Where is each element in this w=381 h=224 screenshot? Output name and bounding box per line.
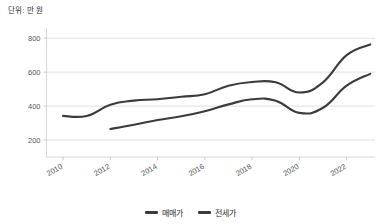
chart-container: 단위: 만 원 200400600800 2010201220142016201… [0,0,381,224]
legend-item-0: 매매가 [145,207,183,218]
series-lines-group [63,44,370,129]
line-chart-plot: 200400600800 201020122014201620182020202… [0,0,381,224]
series-line-jeonse [110,74,370,129]
legend-item-1: 전세가 [198,207,236,218]
x-tick-label-2010: 2010 [45,162,64,178]
x-tick-label-2018: 2018 [234,162,253,178]
x-axis-tick-labels: 2010201220142016201820202022 [45,162,348,178]
x-tick-label-2012: 2012 [92,162,111,178]
legend-swatch-jeonse [198,211,211,213]
legend-label-1: 전세가 [215,207,236,218]
y-axis-tick-labels: 200400600800 [28,34,41,145]
gridlines-group [47,38,376,140]
y-tick-label-800: 800 [28,34,41,43]
x-tick-label-2020: 2020 [281,162,300,178]
legend-swatch-maemae [145,211,158,213]
x-tick-label-2014: 2014 [140,162,159,178]
x-tick-label-2022: 2022 [329,162,348,178]
chart-legend: 매매가 전세가 [0,207,381,218]
legend-label-0: 매매가 [162,207,183,218]
x-tick-label-2016: 2016 [187,162,206,178]
y-tick-label-200: 200 [28,136,41,145]
y-tick-label-400: 400 [28,102,41,111]
tickmarks-group [44,38,347,160]
y-tick-label-600: 600 [28,68,41,77]
